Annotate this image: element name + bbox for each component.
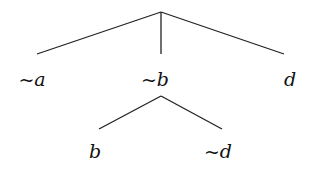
- node-not-d: ~d: [204, 142, 232, 161]
- edge-root-d: [161, 12, 284, 54]
- node-not-a: ~a: [18, 70, 45, 89]
- edge-b-notd: [161, 96, 222, 129]
- node-not-b: ~b: [141, 70, 169, 89]
- edge-root-a: [37, 12, 161, 54]
- node-b: b: [89, 142, 101, 161]
- node-d: d: [284, 70, 296, 89]
- edge-b-b: [99, 96, 161, 129]
